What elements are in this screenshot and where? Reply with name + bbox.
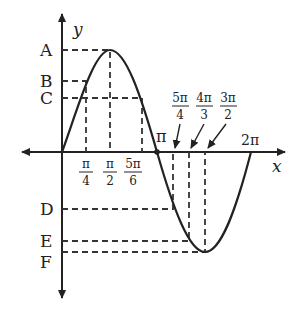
svg-text:π: π	[82, 157, 90, 171]
svg-text:π: π	[106, 157, 114, 171]
label-F: F	[40, 252, 52, 272]
label-C: C	[40, 88, 53, 108]
svg-text:2: 2	[106, 174, 114, 188]
label-D: D	[40, 199, 54, 219]
tick-3pi-2: 3π 2	[208, 91, 237, 148]
svg-text:4π: 4π	[196, 91, 212, 105]
y-axis-label: y	[72, 19, 83, 39]
label-E: E	[40, 231, 52, 251]
label-A: A	[39, 40, 53, 60]
svg-text:4: 4	[176, 108, 184, 122]
tick-pi-2: π 2	[103, 157, 117, 188]
tick-4pi-3: 4π 3	[191, 91, 213, 148]
svg-text:4: 4	[82, 174, 90, 188]
label-pi: π	[156, 127, 167, 146]
svg-text:3: 3	[200, 108, 208, 122]
tick-5pi-6: 5π 6	[124, 157, 142, 188]
svg-text:3π: 3π	[220, 91, 236, 105]
pi-point	[154, 149, 160, 155]
tick-pi-4: π 4	[79, 157, 93, 188]
x-axis-label: x	[272, 156, 282, 176]
svg-text:5π: 5π	[125, 157, 141, 171]
svg-text:2: 2	[224, 108, 232, 122]
label-2pi: 2π	[241, 132, 259, 148]
sine-diagram: A B C D E F y x π 4 π 2 5π 6 5π 4 4π 3 3…	[0, 0, 292, 314]
svg-text:6: 6	[129, 174, 137, 188]
svg-text:5π: 5π	[172, 91, 188, 105]
tick-5pi-4: 5π 4	[172, 91, 189, 148]
